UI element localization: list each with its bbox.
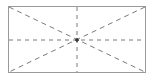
placeholder-diagram (0, 0, 148, 79)
